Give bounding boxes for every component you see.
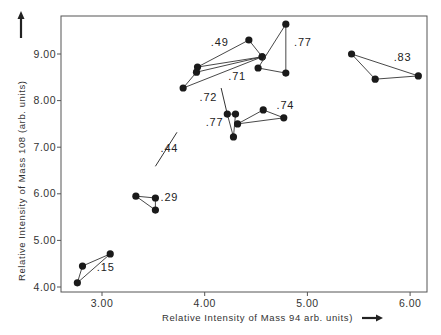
group-label: .44 xyxy=(161,142,179,154)
y-tick-label: 4.00 xyxy=(34,281,56,293)
x-axis-arrow-icon xyxy=(362,315,383,322)
group-label: .15 xyxy=(97,261,115,273)
data-group: .74 xyxy=(234,99,294,128)
group-label: .77 xyxy=(294,36,312,48)
data-point xyxy=(180,84,187,91)
data-point xyxy=(280,114,287,121)
group-label: .83 xyxy=(394,51,412,63)
data-group: .83 xyxy=(348,50,422,82)
data-groups: .15.29.44.49.71.77.72.77.74.83 xyxy=(74,21,422,287)
data-point xyxy=(255,64,262,71)
group-line xyxy=(221,88,227,114)
y-tick-label: 8.00 xyxy=(34,94,56,106)
data-group: .77 xyxy=(255,21,312,77)
data-group: .72 xyxy=(200,88,228,114)
group-outline xyxy=(258,24,286,73)
group-label: .72 xyxy=(200,91,218,103)
y-tick-label: 9.00 xyxy=(34,48,56,60)
data-point xyxy=(348,50,355,57)
data-point xyxy=(74,279,81,286)
data-group: .15 xyxy=(74,250,115,286)
group-outline xyxy=(198,40,263,67)
x-axis-ticks: 3.004.005.006.00 xyxy=(91,292,422,309)
data-group: .71 xyxy=(180,53,266,91)
data-group: .44 xyxy=(155,132,178,166)
data-point xyxy=(107,250,114,257)
data-point xyxy=(132,193,139,200)
x-tick-label: 5.00 xyxy=(296,297,318,309)
group-label: .49 xyxy=(211,36,229,48)
y-axis-label: Relative Intensity of Mass 108 (arb. uni… xyxy=(16,80,27,281)
group-label: .71 xyxy=(228,70,246,82)
data-point xyxy=(79,262,86,269)
data-point xyxy=(260,106,267,113)
y-tick-label: 5.00 xyxy=(34,234,56,246)
data-point xyxy=(224,111,231,118)
data-group: .49 xyxy=(194,36,266,71)
x-tick-label: 6.00 xyxy=(399,297,421,309)
y-axis-arrow-icon xyxy=(18,11,25,38)
x-tick-label: 4.00 xyxy=(193,297,215,309)
data-group: .77 xyxy=(206,111,239,141)
group-label: .74 xyxy=(277,99,295,111)
x-axis-label: Relative Intensity of Mass 94 arb. units… xyxy=(162,312,353,323)
data-point xyxy=(372,76,379,83)
data-point xyxy=(152,207,159,214)
group-label: .29 xyxy=(161,191,179,203)
y-axis-ticks: 4.005.006.007.008.009.00 xyxy=(34,48,61,293)
data-point xyxy=(230,133,237,140)
data-group: .29 xyxy=(132,191,178,214)
data-point xyxy=(245,36,252,43)
data-point xyxy=(282,70,289,77)
plot-frame xyxy=(61,16,427,292)
data-point xyxy=(193,69,200,76)
data-point xyxy=(232,111,239,118)
y-tick-label: 7.00 xyxy=(34,141,56,153)
y-tick-label: 6.00 xyxy=(34,187,56,199)
data-point xyxy=(282,21,289,28)
plot-border xyxy=(61,16,427,292)
scatter-chart: 3.004.005.006.00 4.005.006.007.008.009.0… xyxy=(0,0,441,335)
x-tick-label: 3.00 xyxy=(91,297,113,309)
data-point xyxy=(415,72,422,79)
data-point xyxy=(234,120,241,127)
group-label: .77 xyxy=(206,116,224,128)
data-point xyxy=(152,194,159,201)
